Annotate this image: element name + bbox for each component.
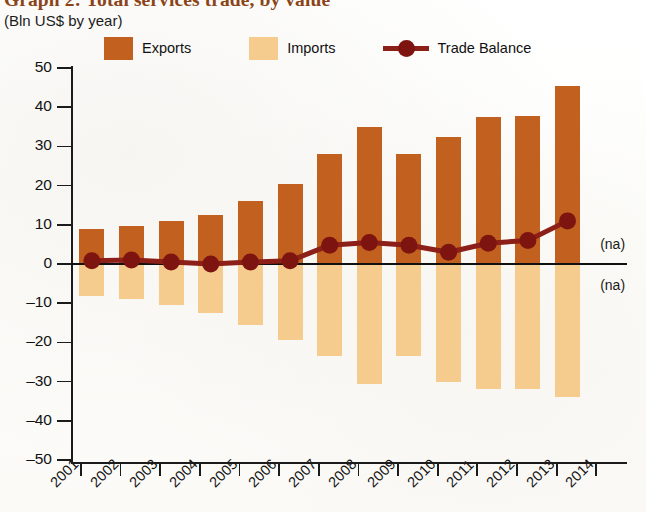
bar-export [317, 154, 342, 264]
y-axis-tick [57, 381, 72, 383]
x-axis-zero-line [71, 263, 627, 265]
x-axis-tick [318, 462, 320, 476]
x-axis-tick [120, 462, 122, 476]
bar-export [79, 229, 104, 264]
bar-import [79, 264, 104, 296]
y-axis-tick-label: –30 [6, 373, 52, 389]
x-axis-tick-label: 2009 [364, 456, 399, 491]
x-axis-tick [437, 462, 439, 476]
y-axis-tick-label: 40 [6, 98, 52, 114]
x-axis-tick-label: 2010 [404, 456, 439, 491]
y-axis-tick [57, 342, 72, 344]
x-axis-tick-label: 2005 [206, 456, 241, 491]
y-axis-tick-label: –40 [6, 412, 52, 428]
bar-import [476, 264, 501, 389]
x-axis-tick-label: 2013 [523, 456, 558, 491]
x-axis-tick [397, 462, 399, 476]
bar-import [357, 264, 382, 384]
x-axis-tick-label: 2012 [483, 456, 518, 491]
x-axis-tick-label: 2008 [325, 456, 360, 491]
y-axis-tick-label: 20 [6, 177, 52, 193]
bar-export [119, 226, 144, 264]
x-axis-tick [80, 462, 82, 476]
bar-import [278, 264, 303, 340]
x-axis-tick-label: 2004 [166, 456, 201, 491]
y-axis-tick [57, 67, 72, 69]
x-axis-tick [278, 462, 280, 476]
x-axis-tick [516, 462, 518, 476]
y-axis-tick-label: 50 [6, 59, 52, 75]
bar-export [278, 184, 303, 264]
bar-export [396, 154, 421, 264]
bar-import [198, 264, 223, 313]
chart-plot-area: 50403020100–10–20–30–40–5020012002200320… [0, 0, 646, 512]
bar-import [515, 264, 540, 389]
bar-import [436, 264, 461, 382]
x-axis-tick [556, 462, 558, 476]
bar-export [198, 215, 223, 264]
y-axis-tick [57, 106, 72, 108]
x-axis-tick-label: 2006 [245, 456, 280, 491]
x-axis-tick [595, 462, 597, 476]
y-axis-tick-label: 30 [6, 137, 52, 153]
y-axis-tick [57, 302, 72, 304]
bar-export [476, 117, 501, 264]
y-axis-tick-label: 0 [6, 255, 52, 271]
bar-import [159, 264, 184, 305]
y-axis-tick-label: –50 [6, 451, 52, 467]
y-axis-tick [57, 146, 72, 148]
x-axis-tick-label: 2007 [285, 456, 320, 491]
na-annotation: (na) [600, 277, 625, 293]
y-axis-tick [57, 263, 72, 265]
na-annotation: (na) [600, 236, 625, 252]
x-axis-tick-label: 2003 [126, 456, 161, 491]
x-axis-tick-label: 2002 [87, 456, 122, 491]
bar-import [238, 264, 263, 325]
x-axis-baseline [71, 462, 627, 464]
bar-export [238, 201, 263, 264]
y-axis-tick [57, 185, 72, 187]
bar-import [317, 264, 342, 356]
y-axis-tick-label: –10 [6, 294, 52, 310]
x-axis-tick [358, 462, 360, 476]
bar-export [159, 221, 184, 264]
bar-import [396, 264, 421, 356]
bar-export [357, 127, 382, 264]
bar-export [555, 86, 580, 264]
x-axis-tick [159, 462, 161, 476]
x-axis-tick-label: 2001 [47, 456, 82, 491]
bar-import [119, 264, 144, 299]
bar-export [515, 116, 540, 264]
y-axis-tick [57, 224, 72, 226]
x-axis-tick [239, 462, 241, 476]
y-axis-tick-label: –20 [6, 333, 52, 349]
x-axis-tick [199, 462, 201, 476]
x-axis-tick [476, 462, 478, 476]
bar-import [555, 264, 580, 397]
y-axis-tick-label: 10 [6, 216, 52, 232]
y-axis-tick [57, 420, 72, 422]
x-axis-tick-label: 2014 [562, 456, 597, 491]
bar-export [436, 137, 461, 264]
